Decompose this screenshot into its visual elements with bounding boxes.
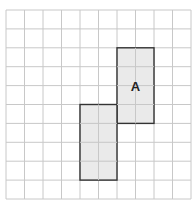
shape-label: A [131, 79, 141, 94]
shape-a [80, 48, 154, 180]
grid-diagram: A [0, 0, 195, 204]
